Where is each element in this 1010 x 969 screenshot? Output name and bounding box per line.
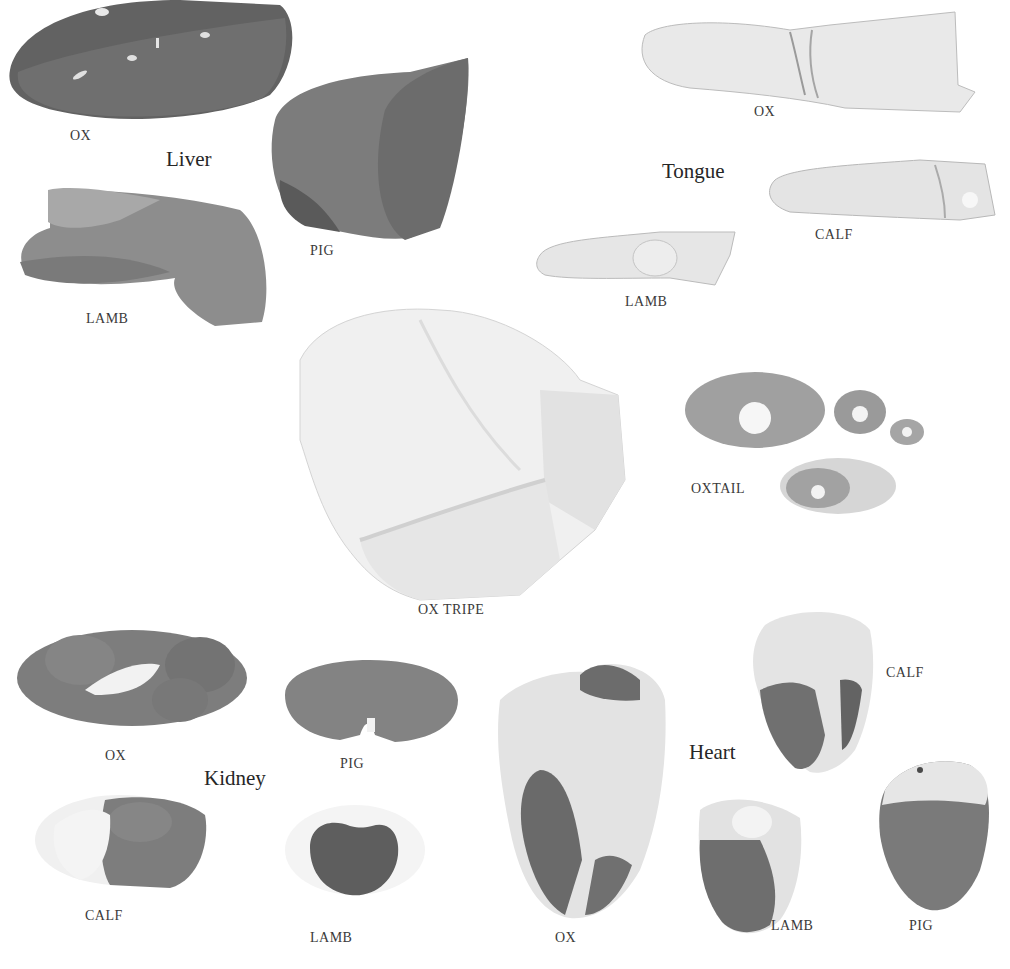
heart-pig-illustration (879, 761, 989, 910)
ox-tripe-illustration (300, 309, 625, 600)
liver-ox-label: OX (70, 128, 91, 144)
tongue-calf-illustration (770, 160, 995, 220)
tongue-title: Tongue (662, 159, 725, 184)
tongue-calf-label: CALF (815, 227, 853, 243)
kidney-lamb-label: LAMB (310, 930, 352, 946)
liver-ox-illustration (9, 0, 292, 119)
kidney-pig-label: PIG (340, 756, 364, 772)
heart-ox-label: OX (555, 930, 576, 946)
heart-title: Heart (689, 740, 736, 765)
kidney-calf-label: CALF (85, 908, 123, 924)
heart-calf-illustration (753, 612, 873, 773)
kidney-lamb-illustration (285, 805, 425, 895)
illustration-canvas (0, 0, 1010, 969)
kidney-pig-illustration (285, 660, 458, 742)
heart-pig-label: PIG (909, 918, 933, 934)
liver-pig-label: PIG (310, 243, 334, 259)
tongue-ox-label: OX (754, 104, 775, 120)
heart-lamb-illustration (699, 800, 802, 934)
heart-calf-label: CALF (886, 665, 924, 681)
liver-pig-illustration (272, 58, 469, 240)
liver-title: Liver (166, 147, 211, 172)
tongue-ox-illustration (642, 12, 975, 112)
tongue-lamb-label: LAMB (625, 294, 667, 310)
tongue-lamb-illustration (537, 232, 735, 285)
liver-lamb-label: LAMB (86, 311, 128, 327)
liver-lamb-illustration (20, 188, 266, 326)
ox-tripe-label: OX TRIPE (418, 602, 484, 618)
kidney-ox-illustration (17, 630, 247, 726)
oxtail-label: OXTAIL (691, 481, 745, 497)
kidney-ox-label: OX (105, 748, 126, 764)
kidney-title: Kidney (204, 766, 266, 791)
kidney-calf-illustration (35, 795, 206, 888)
heart-ox-illustration (498, 664, 666, 918)
heart-lamb-label: LAMB (771, 918, 813, 934)
